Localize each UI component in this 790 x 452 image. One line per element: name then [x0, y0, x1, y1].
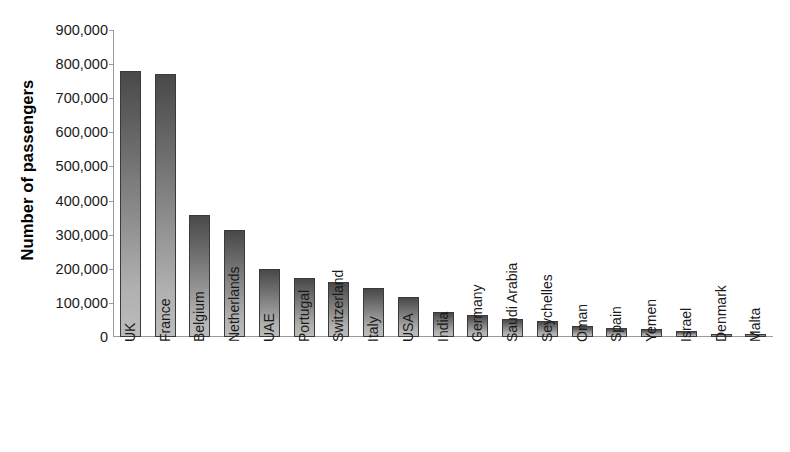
y-axis-tick-label: 100,000: [56, 296, 108, 311]
x-axis-tick-label: UAE: [262, 313, 276, 342]
y-axis-tick-mark: [109, 64, 114, 65]
x-axis-tick-label: India: [436, 312, 450, 342]
y-axis-tick-mark: [109, 132, 114, 133]
x-axis-label-slot: Germany: [460, 338, 494, 452]
x-axis-label-slot: Yemen: [634, 338, 668, 452]
x-axis-label-slot: Spain: [599, 338, 633, 452]
bar-slot: [113, 30, 147, 337]
bar-slot: [599, 30, 633, 337]
bar-slot: [738, 30, 772, 337]
y-axis-tick-mark: [109, 269, 114, 270]
plot-area: [113, 30, 773, 337]
x-axis-label-slot: UK: [113, 338, 147, 452]
x-axis-tick-label: Switzerland: [331, 270, 345, 342]
x-axis-tick-label: Denmark: [714, 285, 728, 342]
y-axis-tick-label: 600,000: [56, 125, 108, 140]
y-axis-tick-label: 400,000: [56, 193, 108, 208]
x-axis-tick-label: Spain: [609, 306, 623, 342]
y-axis-tick-label: 900,000: [56, 23, 108, 38]
y-axis-tick-mark: [109, 166, 114, 167]
x-axis-tick-label: Germany: [470, 284, 484, 342]
y-axis-tick-label: 200,000: [56, 262, 108, 277]
x-axis-label-slot: Saudi Arabia: [495, 338, 529, 452]
y-axis-tick-label: 800,000: [56, 57, 108, 72]
bar-slot: [426, 30, 460, 337]
x-axis-label-slot: Switzerland: [321, 338, 355, 452]
x-axis-tick-label: UK: [123, 323, 137, 342]
x-axis-tick-label: Oman: [575, 304, 589, 342]
x-axis-tick-label: Yemen: [644, 299, 658, 342]
bar-series: [113, 30, 773, 337]
y-axis-tick-label: 0: [100, 330, 108, 345]
bar-chart: Number of passengers 900,000800,000700,0…: [0, 0, 790, 452]
x-axis-tick-label: Israel: [679, 308, 693, 342]
y-axis-tick-mark: [109, 201, 114, 202]
x-axis-label-slot: Italy: [356, 338, 390, 452]
x-axis-label-slot: Portugal: [287, 338, 321, 452]
x-axis-label-slot: France: [148, 338, 182, 452]
x-axis-tick-label: Belgium: [192, 291, 206, 342]
x-axis-tick-label: USA: [401, 313, 415, 342]
x-axis-label-slot: Malta: [738, 338, 772, 452]
x-axis-tick-label: Seychelles: [540, 274, 554, 342]
x-axis-tick-label: Saudi Arabia: [505, 263, 519, 342]
y-axis-tick-label: 700,000: [56, 91, 108, 106]
x-axis-label-slot: Netherlands: [217, 338, 251, 452]
bar-slot: [252, 30, 286, 337]
x-axis-label-slot: Israel: [669, 338, 703, 452]
y-axis-tick-mark: [109, 235, 114, 236]
y-axis-tick-label: 300,000: [56, 227, 108, 242]
x-axis-tick-label: Netherlands: [227, 267, 241, 343]
bar[interactable]: [120, 71, 141, 337]
bar-slot: [391, 30, 425, 337]
x-axis-label-slot: USA: [391, 338, 425, 452]
x-axis-tick-label: Italy: [366, 316, 380, 342]
x-axis-tick-label: Portugal: [297, 290, 311, 342]
y-axis-tick-mark: [109, 98, 114, 99]
bar-slot: [356, 30, 390, 337]
x-axis-label-slot: Seychelles: [530, 338, 564, 452]
x-axis-label-slot: Oman: [565, 338, 599, 452]
bar-slot: [565, 30, 599, 337]
x-axis-label-slot: Belgium: [182, 338, 216, 452]
x-axis-tick-label: Malta: [748, 308, 762, 342]
y-axis-tick-label: 500,000: [56, 159, 108, 174]
x-axis-tick-labels: UKFranceBelgiumNetherlandsUAEPortugalSwi…: [113, 338, 773, 452]
bar-slot: [669, 30, 703, 337]
x-axis-label-slot: UAE: [252, 338, 286, 452]
y-axis-tick-mark: [109, 30, 114, 31]
x-axis-label-slot: Denmark: [704, 338, 738, 452]
bar-slot: [634, 30, 668, 337]
x-axis-label-slot: India: [426, 338, 460, 452]
bar-slot: [148, 30, 182, 337]
y-axis-tick-mark: [109, 303, 114, 304]
x-axis-tick-label: France: [158, 298, 172, 342]
y-axis-tick-labels: 900,000800,000700,000600,000500,000400,0…: [34, 0, 108, 452]
